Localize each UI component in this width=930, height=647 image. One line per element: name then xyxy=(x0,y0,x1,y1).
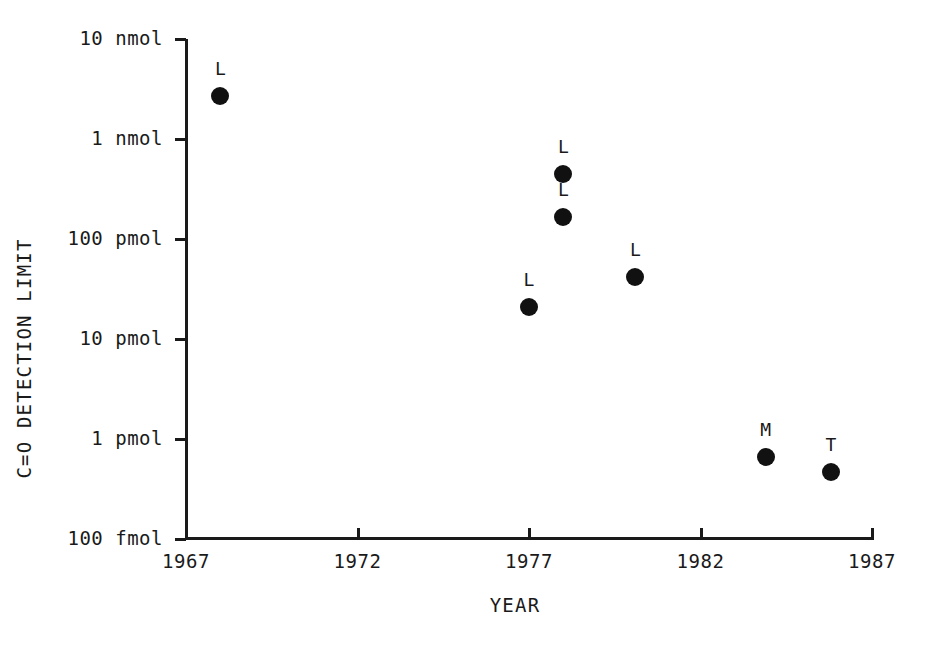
scatter-chart: 10 nmol1 nmol100 pmol10 pmol1 pmol100 fm… xyxy=(0,0,930,647)
data-point-marker xyxy=(757,448,775,466)
y-axis-tick xyxy=(175,238,186,241)
data-point-label: L xyxy=(547,138,579,156)
data-point-label: L xyxy=(547,181,579,199)
x-axis-tick xyxy=(528,528,531,540)
y-axis-tick-label-text: 100 pmol xyxy=(67,229,163,248)
y-axis-tick-label: 10 nmol xyxy=(0,29,163,48)
data-point-label: L xyxy=(513,271,545,289)
x-axis-tick-label: 1987 xyxy=(827,552,917,571)
data-point-marker xyxy=(211,87,229,105)
x-axis-title: YEAR xyxy=(425,596,605,615)
data-point-marker xyxy=(822,463,840,481)
x-axis-tick xyxy=(700,528,703,540)
y-axis-tick-label-text: 1 nmol xyxy=(91,129,163,148)
data-point-label: L xyxy=(619,241,651,259)
x-axis-tick xyxy=(185,528,188,540)
y-axis-tick xyxy=(175,438,186,441)
x-axis-tick-label: 1982 xyxy=(656,552,746,571)
data-point-marker xyxy=(520,298,538,316)
x-axis-tick-label: 1972 xyxy=(313,552,403,571)
y-axis-tick xyxy=(175,138,186,141)
x-axis-tick xyxy=(871,528,874,540)
data-point-label: L xyxy=(204,60,236,78)
y-axis-tick-label: 1 nmol xyxy=(0,129,163,148)
y-axis-tick-label: 100 fmol xyxy=(0,529,163,548)
data-point-label: M xyxy=(750,421,782,439)
data-point-label: T xyxy=(815,436,847,454)
y-axis-title: C=O DETECTION LIMIT xyxy=(15,194,34,524)
x-axis-tick-label: 1967 xyxy=(141,552,231,571)
x-axis-tick-label: 1977 xyxy=(484,552,574,571)
y-axis-line xyxy=(185,39,188,540)
y-axis-tick xyxy=(175,338,186,341)
y-axis-tick-label-text: 1 pmol xyxy=(91,429,163,448)
y-axis-tick-label-text: 100 fmol xyxy=(67,529,163,548)
data-point-marker xyxy=(626,268,644,286)
data-point-marker xyxy=(554,208,572,226)
y-axis-tick xyxy=(175,38,186,41)
y-axis-tick-label-text: 10 pmol xyxy=(79,329,163,348)
x-axis-tick xyxy=(357,528,360,540)
y-axis-tick-label-text: 10 nmol xyxy=(79,29,163,48)
